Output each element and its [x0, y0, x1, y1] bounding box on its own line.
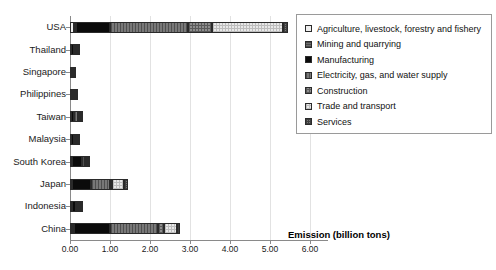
- legend-swatch-icon: [305, 41, 312, 48]
- legend-item: Services: [305, 114, 485, 130]
- category-label-taiwan: Taiwan: [2, 112, 66, 122]
- category-labels: USAThailandSingaporePhilippinesTaiwanMal…: [0, 0, 66, 240]
- legend-label: Agriculture, livestock, forestry and fis…: [317, 24, 481, 34]
- bar-segment: [81, 111, 83, 122]
- legend-label: Services: [317, 117, 352, 127]
- x-axis-title: Emission (billion tons): [288, 229, 390, 240]
- bar-segment: [188, 22, 213, 33]
- legend-label: Mining and quarrying: [317, 39, 401, 49]
- bar-segment: [212, 22, 282, 33]
- category-label-japan: Japan: [2, 179, 66, 189]
- category-label-thailand: Thailand: [2, 45, 66, 55]
- bars-layer: [70, 16, 310, 240]
- x-tick-label: 0.00: [50, 244, 90, 254]
- legend-swatch-icon: [305, 87, 312, 94]
- legend-label: Electricity, gas, and water supply: [317, 70, 447, 80]
- bar-segment: [112, 179, 124, 190]
- legend-item: Construction: [305, 83, 485, 99]
- bar-segment: [88, 156, 90, 167]
- legend-label: Trade and transport: [317, 101, 396, 111]
- bar-segment: [110, 223, 157, 234]
- category-label-philippines: Philippines: [2, 89, 66, 99]
- bar-segment: [81, 201, 83, 212]
- category-label-malaysia: Malaysia: [2, 134, 66, 144]
- category-label-usa: USA: [2, 22, 66, 32]
- bar-segment: [124, 179, 128, 190]
- bar-segment: [76, 22, 110, 33]
- legend-item: Mining and quarrying: [305, 37, 485, 53]
- chart-legend: Agriculture, livestock, forestry and fis…: [296, 14, 492, 134]
- bar-segment: [72, 156, 82, 167]
- x-tick-label: 6.00: [290, 244, 330, 254]
- bar-segment: [74, 223, 110, 234]
- legend-swatch-icon: [305, 103, 312, 110]
- legend-swatch-icon: [305, 118, 312, 125]
- legend-item: Agriculture, livestock, forestry and fis…: [305, 21, 485, 37]
- x-tick-label: 4.00: [210, 244, 250, 254]
- x-axis-line: [70, 240, 328, 241]
- legend-item: Electricity, gas, and water supply: [305, 68, 485, 84]
- category-label-singapore: Singapore: [2, 67, 66, 77]
- bar-segment: [177, 223, 180, 234]
- category-label-indonesia: Indonesia: [2, 201, 66, 211]
- bar-segment: [76, 89, 78, 100]
- bar-segment: [283, 22, 288, 33]
- bar-segment: [164, 223, 177, 234]
- x-tick-label: 2.00: [130, 244, 170, 254]
- x-tick-label: 1.00: [90, 244, 130, 254]
- bar-segment: [72, 179, 91, 190]
- bar-segment: [74, 67, 76, 78]
- emission-stacked-bar-chart: USAThailandSingaporePhilippinesTaiwanMal…: [0, 0, 496, 270]
- legend-label: Construction: [317, 86, 368, 96]
- legend-swatch-icon: [305, 25, 312, 32]
- legend-label: Manufacturing: [317, 55, 374, 65]
- bar-segment: [78, 44, 80, 55]
- x-tick-label: 3.00: [170, 244, 210, 254]
- legend-swatch-icon: [305, 72, 312, 79]
- bar-segment: [78, 134, 80, 145]
- legend-swatch-icon: [305, 56, 312, 63]
- bar-segment: [91, 179, 110, 190]
- legend-item: Trade and transport: [305, 99, 485, 115]
- legend-item: Manufacturing: [305, 52, 485, 68]
- bar-segment: [110, 22, 188, 33]
- category-label-south-korea: South Korea: [2, 157, 66, 167]
- x-tick-label: 5.00: [250, 244, 290, 254]
- category-label-china: China: [2, 224, 66, 234]
